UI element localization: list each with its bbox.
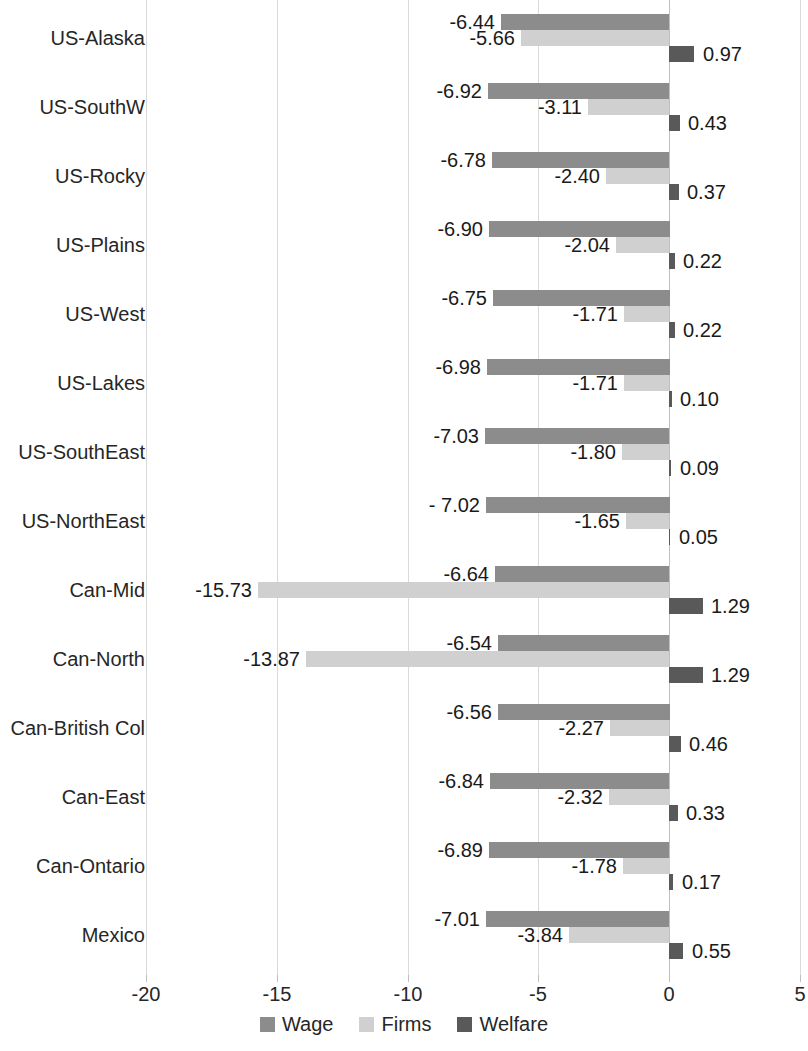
bar-firms [626,513,669,529]
bar-firms [624,375,669,391]
bar-firms [569,927,669,943]
bar-value-label: -2.40 [480,166,600,186]
bar-firms [622,444,669,460]
x-tick-mark [538,975,539,982]
bar-value-label: -6.84 [364,771,484,791]
bar-welfare [669,598,703,614]
bar-value-label: 1.29 [711,665,750,685]
bar-welfare [669,667,703,683]
bar-value-label: -2.32 [483,787,603,807]
bar-value-label: 0.55 [692,941,731,961]
bar-value-label: 0.05 [679,527,718,547]
gridline-5 [800,0,801,975]
plot-area: US-Alaska-6.44-5.660.97US-SouthW-6.92-3.… [0,0,808,975]
bar-value-label: -15.73 [132,580,252,600]
bar-welfare [669,805,678,821]
legend-swatch-icon [260,1017,275,1032]
category-label: Can-Ontario [0,856,145,876]
category-label: US-SouthEast [0,442,145,462]
category-label: US-NorthEast [0,511,145,531]
bar-welfare [669,184,679,200]
bar-value-label: -13.87 [180,649,300,669]
category-label: Can-North [0,649,145,669]
bar-value-label: 0.97 [703,44,742,64]
bar-firms [610,720,669,736]
bar-firms [606,168,669,184]
bar-value-label: 0.17 [682,872,721,892]
legend-item-wage[interactable]: Wage [260,1014,334,1034]
bar-value-label: -1.65 [500,511,620,531]
bar-value-label: 0.46 [689,734,728,754]
bar-value-label: -3.84 [443,925,563,945]
bar-value-label: -6.90 [363,219,483,239]
bar-value-label: -6.75 [367,288,487,308]
bar-value-label: -6.54 [372,633,492,653]
x-tick-mark [669,975,670,982]
bar-value-label: 0.37 [687,182,726,202]
x-tick-label: 0 [629,983,709,1005]
bar-value-label: -6.78 [366,150,486,170]
gridline-neg5 [538,0,539,975]
category-label: Can-British Col [0,718,145,738]
bar-value-label: -3.11 [462,97,582,117]
bar-welfare [669,115,680,131]
x-tick-mark [800,975,801,982]
bar-value-label: 0.33 [686,803,725,823]
category-label: US-Lakes [0,373,145,393]
x-tick-label: -20 [106,983,186,1005]
bar-value-label: -6.89 [363,840,483,860]
bar-value-label: -5.66 [395,28,515,48]
legend-item-firms[interactable]: Firms [359,1014,431,1034]
category-label: US-SouthW [0,97,145,117]
bar-welfare [669,253,675,269]
gridline-neg20 [146,0,147,975]
bar-value-label: -1.80 [496,442,616,462]
bar-value-label: - 7.02 [360,495,480,515]
bar-wage [501,14,669,30]
category-label: US-Alaska [0,28,145,48]
category-label: Mexico [0,925,145,945]
legend-swatch-icon [359,1017,374,1032]
bar-firms [521,30,669,46]
bar-firms [258,582,669,598]
bar-welfare [669,529,670,545]
legend-swatch-icon [457,1017,472,1032]
bar-chart: US-Alaska-6.44-5.660.97US-SouthW-6.92-3.… [0,0,808,1051]
bar-firms [623,858,670,874]
bar-firms [588,99,669,115]
bar-value-label: -7.03 [359,426,479,446]
category-label: Can-Mid [0,580,145,600]
bar-welfare [669,943,683,959]
gridline-0 [669,0,670,975]
gridline-neg15 [277,0,278,975]
bar-value-label: -1.71 [498,304,618,324]
x-tick-label: -10 [368,983,448,1005]
bar-welfare [669,391,672,407]
bar-wage [495,566,669,582]
bar-firms [306,651,669,667]
bar-value-label: -2.27 [484,718,604,738]
bar-firms [616,237,669,253]
bar-value-label: -1.71 [498,373,618,393]
bar-value-label: -6.98 [361,357,481,377]
bar-firms [624,306,669,322]
legend-label: Wage [282,1014,334,1034]
bar-value-label: -6.64 [369,564,489,584]
bar-value-label: 0.22 [683,320,722,340]
x-tick-label: -5 [498,983,578,1005]
bar-value-label: 0.10 [680,389,719,409]
bar-welfare [669,322,675,338]
x-tick-label: 5 [760,983,808,1005]
x-tick-mark [277,975,278,982]
x-axis: -20-15-10-505 [0,975,808,1011]
bar-value-label: -2.04 [490,235,610,255]
bar-wage [498,635,669,651]
category-label: US-Plains [0,235,145,255]
legend-label: Firms [381,1014,431,1034]
bar-welfare [669,460,671,476]
bar-value-label: 1.29 [711,596,750,616]
legend-item-welfare[interactable]: Welfare [457,1014,548,1034]
chart-legend: WageFirmsWelfare [0,1014,808,1034]
bar-value-label: 0.09 [680,458,719,478]
legend-label: Welfare [479,1014,548,1034]
